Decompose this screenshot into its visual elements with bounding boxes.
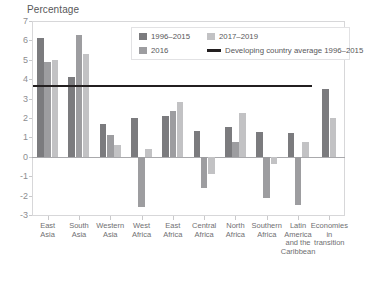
bar <box>239 113 246 157</box>
bar <box>225 127 232 157</box>
x-axis-tick-mark <box>142 216 143 220</box>
y-axis: 76543210-1-2-3 <box>0 0 28 284</box>
legend-item-developing-average: Developing country average 1996–2015 <box>207 46 363 55</box>
bar <box>201 157 208 188</box>
x-axis-tick-mark <box>329 216 330 220</box>
y-axis-tick-mark <box>29 196 32 197</box>
x-axis-tick-mark <box>267 216 268 220</box>
legend-item-2016: 2016 <box>139 46 168 55</box>
y-axis-tick-label: 5 <box>23 55 28 65</box>
x-axis-tick-mark <box>298 216 299 220</box>
chart-legend: 1996–2015 2016 2017–2019 Developing coun… <box>131 27 350 60</box>
x-axis-tick-mark <box>110 216 111 220</box>
y-axis-tick-label: -3 <box>20 210 28 220</box>
legend-item-1996-2015: 1996–2015 <box>139 32 190 41</box>
x-axis-tick-mark <box>173 216 174 220</box>
bar <box>131 118 138 157</box>
y-axis-tick-mark <box>29 99 32 100</box>
x-axis-tick-mark <box>235 216 236 220</box>
bar <box>208 157 215 174</box>
chart-root: Percentage 76543210-1-2-3 1996–2015 2016… <box>0 0 378 284</box>
bar <box>76 35 83 157</box>
bar <box>100 124 107 157</box>
legend-item-2017-2019: 2017–2019 <box>207 32 258 41</box>
bar <box>162 116 169 157</box>
y-axis-tick-label: 2 <box>23 113 28 123</box>
legend-label-2016: 2016 <box>151 46 168 55</box>
legend-label-1996-2015: 1996–2015 <box>151 32 190 41</box>
legend-swatch-2017-2019 <box>207 33 215 40</box>
y-axis-tick-mark <box>29 79 32 80</box>
bar <box>302 142 309 157</box>
legend-label-developing-average: Developing country average 1996–2015 <box>225 46 363 55</box>
bar <box>68 77 75 157</box>
bar <box>145 149 152 157</box>
y-axis-tick-label: 1 <box>23 132 28 142</box>
y-axis-tick-mark <box>29 60 32 61</box>
bar <box>83 54 90 157</box>
x-axis-tick-mark <box>204 216 205 220</box>
y-axis-tick-label: 7 <box>23 16 28 26</box>
y-axis-tick-label: 0 <box>23 152 28 162</box>
x-axis-tick-mark <box>79 216 80 220</box>
bar <box>330 118 337 157</box>
legend-swatch-2016 <box>139 47 147 54</box>
y-axis-tick-mark <box>29 157 32 158</box>
bar <box>107 135 114 156</box>
bar <box>52 60 59 157</box>
legend-line-marker-developing-average <box>207 49 221 52</box>
y-axis-tick-mark <box>29 176 32 177</box>
bar <box>37 38 44 156</box>
bar <box>295 157 302 206</box>
y-axis-tick-mark <box>29 40 32 41</box>
bar <box>114 145 121 157</box>
x-axis-tick-mark <box>48 216 49 220</box>
bar <box>288 133 295 157</box>
bar <box>232 142 239 157</box>
y-axis-tick-mark <box>29 21 32 22</box>
y-axis-tick-mark <box>29 215 32 216</box>
x-axis-category-label: Economies in transition <box>308 222 351 248</box>
y-axis-tick-mark <box>29 137 32 138</box>
y-axis-tick-label: 4 <box>23 74 28 84</box>
y-axis-tick-label: 3 <box>23 94 28 104</box>
bar <box>271 157 278 164</box>
developing-country-average-line <box>33 85 312 87</box>
bar <box>177 102 184 157</box>
y-axis-tick-label: -1 <box>20 171 28 181</box>
bar <box>322 89 329 157</box>
bar <box>194 131 201 157</box>
bar <box>170 111 177 157</box>
y-axis-tick-label: -2 <box>20 191 28 201</box>
bar <box>263 157 270 198</box>
y-axis-tick-mark <box>29 118 32 119</box>
bar <box>256 132 263 157</box>
bar <box>44 62 51 157</box>
bar <box>138 157 145 207</box>
legend-label-2017-2019: 2017–2019 <box>219 32 258 41</box>
y-axis-title: Percentage <box>27 4 79 15</box>
legend-swatch-1996-2015 <box>139 33 147 40</box>
y-axis-tick-label: 6 <box>23 35 28 45</box>
